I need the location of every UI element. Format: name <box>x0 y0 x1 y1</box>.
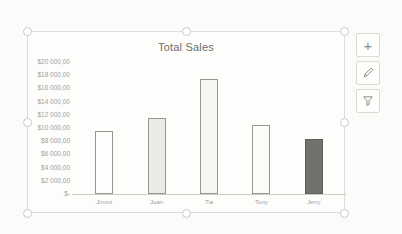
bar-joan[interactable] <box>148 118 166 194</box>
funnel-icon <box>361 94 375 108</box>
selection-handle-se[interactable] <box>340 209 349 218</box>
x-category-label: Jerry <box>294 198 334 206</box>
bar-jerry[interactable] <box>305 139 323 194</box>
x-category-label: Jimmi <box>84 198 124 206</box>
selection-handle-ne[interactable] <box>340 27 349 36</box>
bar-tia[interactable] <box>200 79 218 195</box>
bar-tony[interactable] <box>252 125 270 194</box>
chart-styles-button[interactable] <box>356 61 380 85</box>
selection-handle-w[interactable] <box>23 118 32 127</box>
selection-handle-sw[interactable] <box>23 209 32 218</box>
selection-handle-s[interactable] <box>182 209 191 218</box>
selection-handle-n[interactable] <box>182 27 191 36</box>
bar-jimmi[interactable] <box>95 131 113 194</box>
plus-icon: + <box>364 38 373 53</box>
brush-icon <box>361 66 375 80</box>
x-category-label: Joan <box>137 198 177 206</box>
chart-elements-button[interactable]: + <box>356 33 380 57</box>
chart-object[interactable]: Total Sales $-$2 000,00$4 000,00$6 000,0… <box>27 31 345 213</box>
selection-handle-e[interactable] <box>340 118 349 127</box>
selection-handle-nw[interactable] <box>23 27 32 36</box>
plot-area <box>28 32 344 212</box>
x-category-label: Tia <box>189 198 229 206</box>
chart-filters-button[interactable] <box>356 89 380 113</box>
x-axis-line <box>72 194 346 195</box>
page-background: Total Sales $-$2 000,00$4 000,00$6 000,0… <box>0 0 402 234</box>
x-category-label: Tony <box>241 198 281 206</box>
